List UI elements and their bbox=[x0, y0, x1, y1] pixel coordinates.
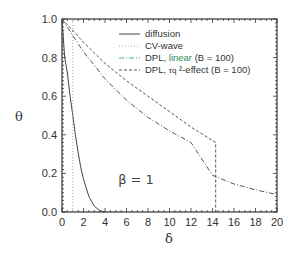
x-tick-label: 16 bbox=[228, 216, 240, 228]
chart: 02468101214161820 0.00.20.40.60.81.0 δ θ… bbox=[0, 0, 294, 254]
legend-label-diffusion: diffusion bbox=[145, 28, 180, 39]
x-tick-label: 8 bbox=[145, 216, 151, 228]
y-tick-label: 0.2 bbox=[42, 167, 57, 179]
series-line-diffusion bbox=[62, 19, 105, 212]
y-tick-label: 1.0 bbox=[42, 13, 57, 25]
x-axis-label: δ bbox=[165, 231, 173, 246]
y-tick-labels: 0.00.20.40.60.81.0 bbox=[42, 13, 57, 218]
beta-annotation: β = 1 bbox=[118, 172, 154, 187]
y-tick-label: 0.6 bbox=[42, 90, 57, 102]
x-tick-label: 14 bbox=[206, 216, 218, 228]
x-tick-label: 12 bbox=[185, 216, 197, 228]
x-tick-label: 6 bbox=[123, 216, 129, 228]
x-tick-label: 18 bbox=[249, 216, 261, 228]
legend-label-dpl-linear: DPL, linear (B = 100) bbox=[145, 52, 234, 63]
y-tick-label: 0.0 bbox=[42, 206, 57, 218]
x-tick-label: 10 bbox=[163, 216, 175, 228]
y-tick-label: 0.8 bbox=[42, 52, 57, 64]
y-axis-label: θ bbox=[15, 109, 23, 124]
x-tick-labels: 02468101214161820 bbox=[59, 216, 283, 228]
legend-label-cv-wave: CV-wave bbox=[145, 40, 183, 51]
x-tick-label: 2 bbox=[80, 216, 86, 228]
legend-label-dpl-tau: DPL, τq ²-effect (B = 100) bbox=[145, 64, 250, 75]
x-tick-label: 4 bbox=[102, 216, 108, 228]
x-tick-label: 20 bbox=[271, 216, 283, 228]
y-tick-label: 0.4 bbox=[42, 129, 57, 141]
legend: diffusion CV-wave DPL, linear (B = 100) … bbox=[119, 28, 250, 75]
x-tick-label: 0 bbox=[59, 216, 65, 228]
